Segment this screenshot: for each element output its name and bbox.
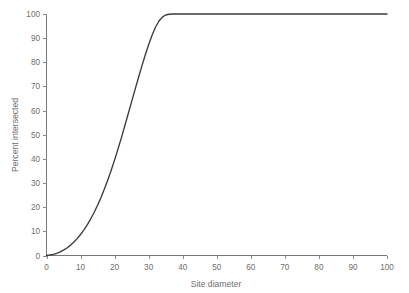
y-tick-label: 80	[31, 58, 41, 67]
x-tick-label: 100	[380, 263, 394, 272]
y-tick-label: 60	[31, 107, 41, 116]
x-tick-label: 10	[76, 263, 86, 272]
y-tick-label: 0	[35, 252, 40, 261]
chart-background	[0, 0, 409, 293]
x-tick-label: 90	[348, 263, 358, 272]
x-tick-label: 0	[44, 263, 49, 272]
x-tick-label: 40	[178, 263, 188, 272]
x-tick-label: 20	[110, 263, 120, 272]
x-tick-label: 80	[314, 263, 324, 272]
x-tick-label: 60	[246, 263, 256, 272]
y-tick-label: 50	[31, 131, 41, 140]
y-tick-label: 10	[31, 227, 41, 236]
line-chart-canvas: 0102030405060708090100 01020304050607080…	[0, 0, 409, 293]
y-axis-title: Percent intersected	[10, 98, 20, 172]
y-tick-label: 100	[26, 10, 40, 19]
x-tick-label: 50	[212, 263, 222, 272]
y-tick-label: 70	[31, 82, 41, 91]
chart-figure: 0102030405060708090100 01020304050607080…	[0, 0, 409, 293]
y-tick-label: 40	[31, 155, 41, 164]
y-tick-label: 90	[31, 34, 41, 43]
x-tick-label: 30	[144, 263, 154, 272]
y-tick-label: 30	[31, 179, 41, 188]
x-axis-title: Site diameter	[191, 279, 242, 289]
x-tick-label: 70	[280, 263, 290, 272]
y-tick-label: 20	[31, 203, 41, 212]
